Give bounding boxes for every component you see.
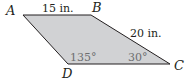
vertex-label-d: D [61, 66, 73, 78]
vertex-label-b: B [91, 0, 102, 15]
parallelogram-diagram: A B C D 15 in. 20 in. 135° 30° [0, 0, 190, 78]
side-ab-measure: 15 in. [42, 2, 74, 15]
vertex-label-a: A [5, 3, 15, 18]
angle-d-measure: 135° [70, 51, 97, 64]
vertex-label-c: C [174, 58, 184, 73]
side-bc-measure: 20 in. [130, 27, 162, 40]
angle-c-measure: 30° [128, 51, 148, 64]
